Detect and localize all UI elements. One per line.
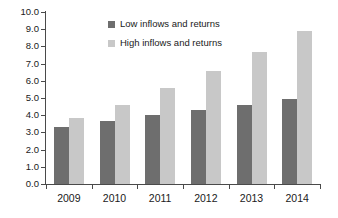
legend-label-low: Low inflows and returns	[120, 19, 220, 29]
y-axis-tick	[41, 12, 45, 13]
x-axis-tick	[320, 185, 321, 189]
bar-2014-low	[282, 99, 297, 184]
bar-2013-low	[237, 105, 252, 184]
x-axis-tick-label: 2011	[137, 193, 183, 204]
x-axis-tick	[183, 185, 184, 189]
y-axis-tick	[41, 184, 45, 185]
x-axis-tick-label: 2013	[229, 193, 275, 204]
x-axis-tick	[92, 185, 93, 189]
bar-2014-high	[297, 31, 312, 184]
y-axis-tick-label: 6.0	[26, 76, 39, 86]
y-axis-tick	[41, 46, 45, 47]
y-axis-tick	[41, 81, 45, 82]
y-axis-tick	[41, 29, 45, 30]
legend-swatch-high-icon	[108, 40, 115, 47]
y-axis-tick	[41, 132, 45, 133]
x-axis-tick	[274, 185, 275, 189]
x-axis-tick	[46, 185, 47, 189]
y-axis-tick-label: 7.0	[26, 59, 39, 69]
bar-2010-high	[115, 105, 130, 184]
y-axis-tick	[41, 64, 45, 65]
y-axis-tick-label: 5.0	[26, 93, 39, 103]
bar-2009-high	[69, 118, 84, 184]
bar-2011-high	[160, 88, 175, 184]
x-axis-tick	[229, 185, 230, 189]
y-axis-tick-label: 0.0	[26, 179, 39, 189]
y-axis-tick-label: 2.0	[26, 145, 39, 155]
bar-2012-low	[191, 110, 206, 184]
y-axis-tick-label: 3.0	[26, 127, 39, 137]
y-axis-tick	[41, 98, 45, 99]
y-axis-tick-label: 8.0	[26, 41, 39, 51]
y-axis-tick	[41, 167, 45, 168]
x-axis-tick	[137, 185, 138, 189]
bar-2013-high	[252, 52, 267, 184]
legend-item-low: Low inflows and returns	[108, 19, 222, 29]
bar-2009-low	[54, 127, 69, 184]
bar-chart: 0.01.02.03.04.05.06.07.08.09.010.0 20092…	[0, 0, 338, 218]
y-axis-tick-label: 1.0	[26, 162, 39, 172]
bar-2012-high	[206, 71, 221, 184]
bar-2010-low	[100, 121, 115, 184]
bar-2011-low	[145, 115, 160, 184]
y-axis-tick	[41, 115, 45, 116]
y-axis-tick-label: 4.0	[26, 110, 39, 120]
legend-swatch-low-icon	[108, 21, 115, 28]
x-axis-tick-label: 2014	[274, 193, 320, 204]
x-axis-tick-label: 2012	[183, 193, 229, 204]
y-axis-tick-label: 9.0	[26, 24, 39, 34]
y-axis-tick-label: 10.0	[21, 7, 40, 17]
y-axis-tick	[41, 150, 45, 151]
legend-label-high: High inflows and returns	[120, 38, 222, 48]
chart-legend: Low inflows and returns High inflows and…	[108, 19, 222, 48]
x-axis-tick-label: 2009	[46, 193, 92, 204]
legend-item-high: High inflows and returns	[108, 38, 222, 48]
x-axis-tick-label: 2010	[92, 193, 138, 204]
